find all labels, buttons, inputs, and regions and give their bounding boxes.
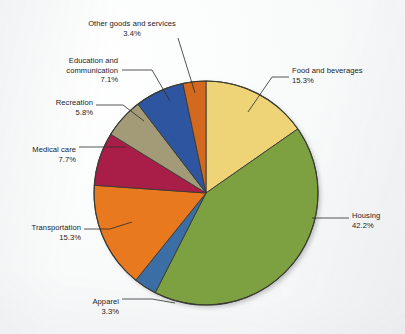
pie-label-name-education-and-communication: Education andcommunication <box>0 56 118 75</box>
pie-label-food-and-beverages: Food and beverages15.3% <box>292 66 363 85</box>
pie-label-name-recreation: Recreation <box>56 98 93 107</box>
pie-label-medical-care: Medical care7.7% <box>0 145 76 164</box>
pie-label-name-apparel: Apparel <box>92 297 119 306</box>
pie-label-recreation: Recreation5.8% <box>0 98 93 117</box>
pie-label-other-goods-and-services: Other goods and services3.4% <box>0 19 264 38</box>
pie-label-name-other-goods-and-services: Other goods and services <box>88 19 176 28</box>
pie-label-value-transportation: 15.3% <box>0 233 81 243</box>
pie-chart-figure: Food and beverages15.3%Housing42.2%Appar… <box>0 0 405 334</box>
pie-label-transportation: Transportation15.3% <box>0 223 81 242</box>
pie-label-value-apparel: 3.3% <box>0 307 119 317</box>
pie-label-value-housing: 42.2% <box>352 221 380 231</box>
pie-label-name-food-and-beverages: Food and beverages <box>292 66 363 75</box>
pie-label-name-housing: Housing <box>352 211 380 220</box>
pie-label-value-other-goods-and-services: 3.4% <box>0 29 264 39</box>
pie-label-housing: Housing42.2% <box>352 211 380 230</box>
pie-label-name-medical-care: Medical care <box>32 145 76 154</box>
pie-label-value-food-and-beverages: 15.3% <box>292 76 363 86</box>
leader-line-apparel <box>122 299 175 303</box>
pie-label-value-medical-care: 7.7% <box>0 155 76 165</box>
pie-label-name-transportation: Transportation <box>32 223 81 232</box>
pie-label-value-recreation: 5.8% <box>0 108 93 118</box>
pie-label-education-and-communication: Education andcommunication7.1% <box>0 56 118 85</box>
pie-label-apparel: Apparel3.3% <box>0 297 119 316</box>
pie-chart-canvas <box>0 0 405 334</box>
pie-slice-group <box>94 81 318 305</box>
pie-label-value-education-and-communication: 7.1% <box>0 75 118 85</box>
